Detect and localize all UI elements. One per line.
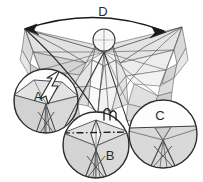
- callout-a-label: A: [34, 89, 43, 104]
- callout-c-group[interactable]: C: [129, 100, 197, 168]
- mesh-figure-illustration: A C: [0, 0, 203, 182]
- callout-b-group[interactable]: B: [63, 112, 129, 178]
- dimension-d-label: D: [98, 4, 107, 19]
- callout-a-group[interactable]: A: [14, 69, 78, 133]
- figure-container: A C: [0, 0, 203, 182]
- dash-dot-axis: [63, 132, 129, 133]
- callout-b-label: B: [106, 148, 115, 163]
- callout-c-label: C: [155, 108, 164, 123]
